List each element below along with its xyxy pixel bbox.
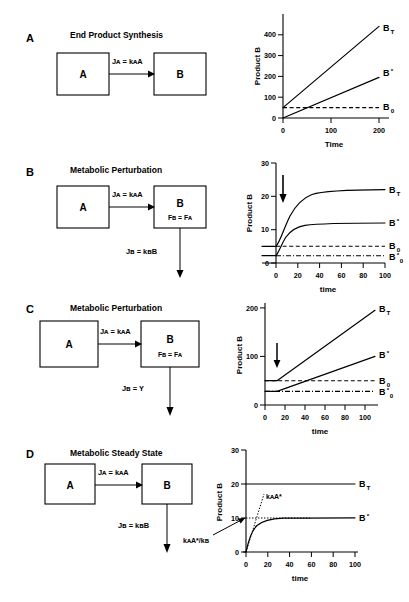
svg-text:0: 0	[391, 107, 395, 114]
x-tick-20: 20	[294, 271, 302, 280]
panel-b: B Metabolic Perturbation A B Fʙ = Fᴀ Jᴀ …	[0, 150, 409, 295]
x-tick-60: 60	[321, 413, 329, 422]
svg-text:T: T	[387, 309, 391, 316]
x-tick-40: 40	[316, 271, 324, 280]
x-tick-100: 100	[359, 413, 371, 422]
y-tick-400: 400	[264, 30, 276, 39]
perturbation-arrow	[279, 175, 286, 203]
y-tick-300: 300	[264, 51, 276, 60]
series-bstar	[283, 77, 379, 118]
x-tick-20: 20	[281, 413, 289, 422]
y-axis-title: Product B	[235, 336, 244, 374]
series-label-bstar0: B * 0	[379, 386, 394, 399]
series-label-bstar0: B * 0	[389, 251, 404, 264]
x-tick-80: 80	[359, 271, 367, 280]
svg-text:B: B	[359, 479, 366, 489]
series-label-b0: B 0	[383, 102, 395, 114]
svg-text:B: B	[379, 350, 386, 360]
x-tick-0: 0	[263, 413, 267, 422]
svg-text:T: T	[391, 28, 395, 35]
x-tick-60: 60	[307, 560, 315, 569]
y-axis-title: Product B	[245, 194, 254, 232]
series-label-bstar: B *	[383, 67, 394, 78]
svg-text:B: B	[389, 252, 396, 262]
x-tick-0: 0	[281, 126, 285, 135]
svg-text:B: B	[389, 241, 396, 251]
panel-a: A End Product Synthesis A B Jᴀ = kᴀA 0 1…	[0, 0, 409, 150]
y-tick-0: 0	[272, 114, 276, 123]
series-bt	[262, 190, 385, 247]
svg-text:*: *	[397, 217, 400, 224]
svg-text:B: B	[383, 23, 390, 33]
panel-b-chart: 0 10 20 30 0 20 40 60 80 100 Product B t…	[0, 150, 409, 295]
series-label-bstar: B *	[389, 217, 400, 228]
svg-text:B: B	[379, 304, 386, 314]
svg-text:*: *	[367, 512, 370, 519]
x-tick-80: 80	[341, 413, 349, 422]
svg-text:B: B	[383, 68, 390, 78]
y-tick-100: 100	[264, 93, 276, 102]
svg-text:T: T	[367, 484, 371, 491]
x-tick-100: 100	[349, 560, 361, 569]
svg-text:0: 0	[390, 392, 394, 399]
svg-text:kᴀA*/kʙ: kᴀA*/kʙ	[183, 537, 210, 544]
y-tick-20: 20	[231, 480, 239, 489]
svg-text:B: B	[359, 513, 366, 523]
annotation-kaastar: kᴀA*	[266, 493, 282, 500]
x-tick-20: 20	[264, 560, 272, 569]
series-bstar	[265, 356, 375, 391]
panel-c: C Metabolic Perturbation A B Fʙ = Fᴀ Jᴀ …	[0, 295, 409, 440]
series-label-bstar: B *	[359, 512, 370, 523]
x-axis-title: time	[312, 427, 329, 436]
y-tick-10: 10	[261, 225, 269, 234]
svg-text:*: *	[387, 349, 390, 356]
svg-text:B: B	[383, 102, 390, 112]
x-axis-title: time	[292, 574, 309, 583]
series-label-bt: B T	[379, 304, 391, 316]
panel-d: D Metabolic Steady State A B Jᴀ = kᴀA Jʙ…	[0, 440, 409, 602]
svg-text:B: B	[389, 185, 396, 195]
y-tick-0: 0	[254, 401, 258, 410]
x-axis-title: time	[320, 285, 337, 294]
svg-text:T: T	[397, 190, 401, 197]
y-tick-30: 30	[261, 159, 269, 168]
svg-text:0: 0	[400, 257, 404, 264]
series-bstar	[246, 518, 355, 552]
perturbation-arrow	[274, 343, 281, 368]
y-tick-200: 200	[246, 304, 258, 313]
panel-a-chart: 0 100 200 300 400 0 100 200 Product B Ti…	[0, 0, 409, 150]
y-tick-0: 0	[265, 259, 269, 268]
series-label-bt: B T	[389, 185, 401, 197]
x-axis-title: Time	[325, 140, 344, 149]
y-tick-0: 0	[235, 548, 239, 557]
y-tick-10: 10	[231, 514, 239, 523]
series-label-bt: B T	[359, 479, 371, 491]
y-tick-200: 200	[264, 72, 276, 81]
y-tick-30: 30	[231, 446, 239, 455]
x-tick-200: 200	[373, 126, 385, 135]
y-tick-20: 20	[261, 192, 269, 201]
svg-text:B: B	[379, 387, 386, 397]
x-tick-80: 80	[329, 560, 337, 569]
x-tick-0: 0	[274, 271, 278, 280]
panel-d-chart: 0 10 20 30 0 20 40 60 80 100 Product B t…	[0, 440, 409, 602]
series-label-bt: B T	[383, 23, 395, 35]
svg-text:B: B	[379, 376, 386, 386]
series-bt	[265, 310, 375, 380]
y-axis-title: Product B	[215, 483, 224, 521]
x-tick-60: 60	[337, 271, 345, 280]
y-axis-title: Product B	[253, 47, 262, 85]
svg-text:B: B	[389, 218, 396, 228]
panel-c-chart: 0 100 200 0 20 40 60 80 100 Product B ti…	[0, 295, 409, 440]
x-tick-40: 40	[286, 560, 294, 569]
y-tick-100: 100	[246, 352, 258, 361]
x-tick-0: 0	[244, 560, 248, 569]
x-tick-100: 100	[379, 271, 391, 280]
series-label-bstar: B *	[379, 349, 390, 360]
svg-text:*: *	[391, 67, 394, 74]
x-tick-100: 100	[325, 126, 337, 135]
x-tick-40: 40	[301, 413, 309, 422]
series-bt	[283, 26, 379, 107]
